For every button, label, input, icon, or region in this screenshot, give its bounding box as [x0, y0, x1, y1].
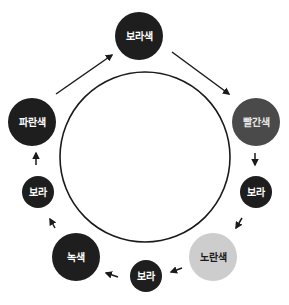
node-label: 노란색 — [200, 251, 227, 263]
node-label: 보라색 — [126, 30, 153, 42]
node-label: 보라 — [137, 270, 156, 282]
node-yellow: 노란색 — [189, 233, 237, 281]
color-cycle-diagram: 보라색빨간색보라노란색보라녹색보라파란색 — [0, 0, 289, 305]
node-blue: 파란색 — [8, 98, 56, 146]
arrow-top-to-red — [172, 52, 229, 94]
node-purple-left: 보라 — [22, 176, 54, 208]
node-label: 파란색 — [19, 116, 46, 128]
node-top: 보라색 — [115, 12, 163, 60]
arrow-blue-to-top — [56, 55, 112, 94]
nodes-group: 보라색빨간색보라노란색보라녹색보라파란색 — [8, 12, 280, 292]
node-purple-bottom: 보라 — [130, 260, 162, 292]
arrow-purple-bottom-to-green — [106, 273, 118, 277]
node-green: 녹색 — [52, 233, 100, 281]
node-label: 녹색 — [67, 251, 85, 263]
arrow-yellow-to-purple-bottom — [171, 268, 182, 272]
node-label: 빨간색 — [243, 116, 270, 128]
node-red: 빨간색 — [232, 98, 280, 146]
arrow-purple-left-to-green — [50, 219, 55, 228]
node-label: 보라 — [247, 186, 266, 198]
node-label: 보라 — [29, 186, 48, 198]
arrow-purple-right-to-yellow — [236, 218, 242, 228]
center-ring — [60, 72, 230, 242]
node-purple-right: 보라 — [240, 176, 272, 208]
